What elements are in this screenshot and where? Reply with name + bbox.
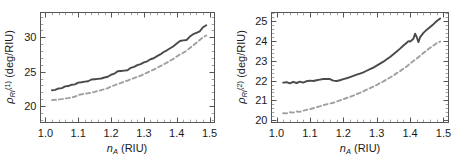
y-axis-title-left: ρRI(1) (deg/RIU) (3, 30, 17, 105)
chart-panel-right: 1.01.11.21.31.41.5202122232425 nA (RIU) … (234, 0, 468, 160)
y-axis-title-right-unit: (deg/RIU) (235, 30, 247, 81)
chart-panel-left: 1.01.11.21.31.41.5202530 nA (RIU) ρRI(1)… (0, 0, 234, 160)
x-tick-label: 1.4 (169, 127, 184, 139)
x-axis-title-right-unit: (RIU) (351, 142, 380, 154)
y-tick-label: 24 (255, 35, 267, 47)
y-tick-label: 21 (255, 94, 267, 106)
ticks-left (41, 13, 215, 123)
y-tick-label: 25 (24, 66, 36, 78)
y-tick-label: 20 (255, 114, 267, 126)
axis-frame-left (41, 13, 215, 123)
x-tick-label: 1.2 (336, 127, 351, 139)
x-tick-label: 1.5 (436, 127, 451, 139)
y-tick-label: 25 (255, 15, 267, 27)
y-tick-label: 30 (24, 31, 36, 43)
x-tick-label: 1.0 (38, 127, 53, 139)
chart-svg-right: 1.01.11.21.31.41.5202122232425 nA (RIU) … (234, 0, 468, 160)
ticks-right (272, 13, 449, 123)
data-curve-solid (283, 18, 440, 83)
data-curve-dashed (283, 42, 440, 114)
axis-frame-right (272, 13, 449, 123)
plot-area-right: 1.01.11.21.31.41.5202122232425 (255, 13, 451, 139)
y-tick-label: 22 (255, 75, 267, 87)
y-axis-title-right-base: ρ (235, 98, 247, 105)
x-tick-label: 1.3 (369, 127, 384, 139)
curves-right (283, 18, 440, 113)
y-tick-label: 20 (24, 100, 36, 112)
x-axis-title-right: nA (RIU) (340, 142, 380, 156)
x-axis-title-left-unit: (RIU) (118, 142, 147, 154)
figure-container: 1.01.11.21.31.41.5202530 nA (RIU) ρRI(1)… (0, 0, 468, 160)
x-tick-label: 1.2 (103, 127, 118, 139)
x-axis-title-left: nA (RIU) (107, 142, 147, 156)
y-axis-title-right-sub: RI (240, 90, 249, 98)
x-tick-label: 1.1 (71, 127, 86, 139)
y-tick-label: 23 (255, 55, 267, 67)
plot-area-left: 1.01.11.21.31.41.5202530 (24, 13, 217, 139)
curves-left (52, 25, 206, 100)
x-tick-label: 1.4 (402, 127, 417, 139)
x-tick-label: 1.1 (302, 127, 317, 139)
data-curve-dashed (52, 36, 206, 101)
x-tick-label: 1.5 (202, 127, 217, 139)
y-axis-title-right: ρRI(2) (deg/RIU) (235, 30, 249, 105)
y-axis-title-left-sub: RI (8, 90, 17, 98)
chart-svg-left: 1.01.11.21.31.41.5202530 nA (RIU) ρRI(1)… (0, 0, 234, 160)
y-axis-title-left-base: ρ (3, 98, 15, 105)
x-tick-label: 1.3 (136, 127, 151, 139)
y-axis-title-left-unit: (deg/RIU) (3, 30, 15, 81)
x-tick-label: 1.0 (269, 127, 284, 139)
